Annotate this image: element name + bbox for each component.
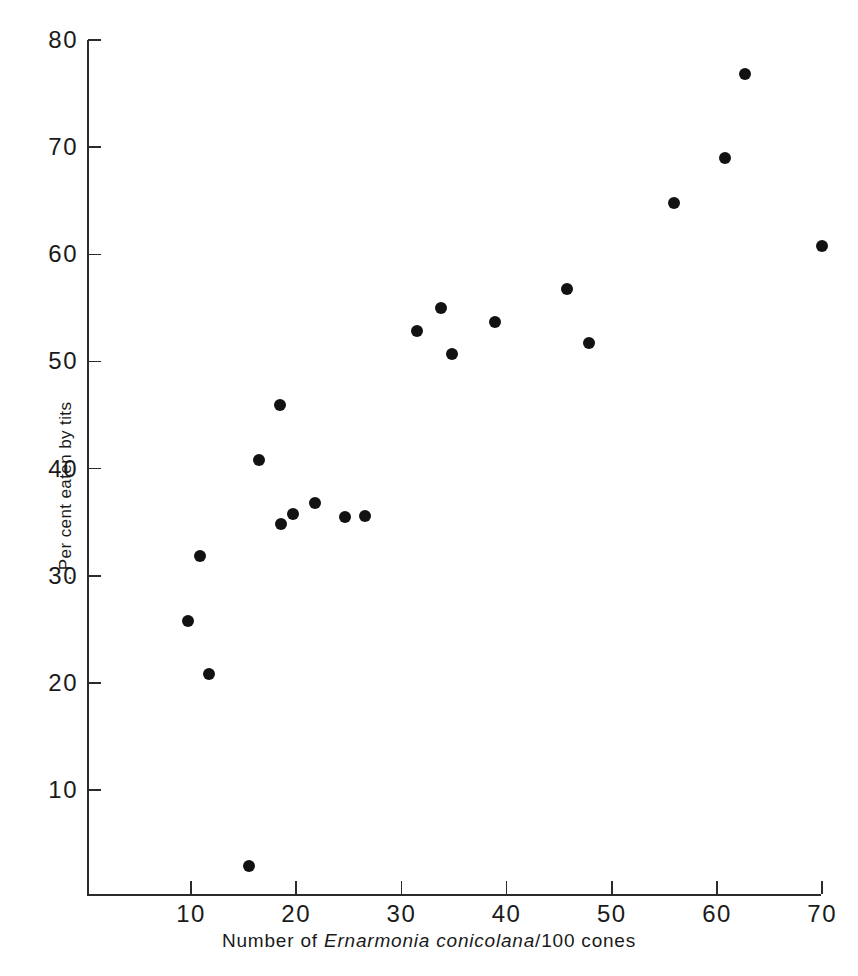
data-point bbox=[446, 348, 458, 360]
data-point bbox=[411, 325, 423, 337]
x-tick-50 bbox=[611, 881, 613, 894]
y-tick-30 bbox=[88, 575, 101, 577]
y-tick-70 bbox=[88, 146, 101, 148]
x-tick-70 bbox=[821, 881, 823, 894]
data-point bbox=[668, 197, 680, 209]
x-axis-title: Number of Ernarmonia conicolana/100 cone… bbox=[0, 930, 858, 952]
y-tick-40 bbox=[88, 468, 101, 470]
data-point bbox=[583, 337, 595, 349]
data-point bbox=[253, 454, 265, 466]
data-point bbox=[287, 508, 299, 520]
x-tick-label-40: 40 bbox=[492, 900, 522, 928]
y-tick-label-20: 20 bbox=[48, 669, 78, 697]
x-tick-20 bbox=[295, 881, 297, 894]
x-axis-title-suffix: /100 cones bbox=[535, 930, 636, 951]
scatter-plot-figure: 1020304050607080 10203040506070 . Per ce… bbox=[0, 0, 858, 976]
data-point bbox=[816, 240, 828, 252]
x-tick-label-30: 30 bbox=[387, 900, 417, 928]
data-point bbox=[435, 302, 447, 314]
x-tick-label-10: 10 bbox=[176, 900, 206, 928]
y-tick-label-80: 80 bbox=[48, 26, 78, 54]
x-tick-label-50: 50 bbox=[597, 900, 627, 928]
x-tick-label-20: 20 bbox=[281, 900, 311, 928]
data-point bbox=[489, 316, 501, 328]
y-tick-10 bbox=[88, 789, 101, 791]
x-axis-title-prefix: Number of bbox=[222, 930, 324, 951]
y-tick-20 bbox=[88, 682, 101, 684]
data-point bbox=[359, 510, 371, 522]
data-point bbox=[339, 511, 351, 523]
data-point bbox=[275, 518, 287, 530]
data-point bbox=[203, 668, 215, 680]
data-point bbox=[309, 497, 321, 509]
data-point bbox=[561, 283, 573, 295]
x-tick-30 bbox=[401, 881, 403, 894]
y-tick-label-60: 60 bbox=[48, 240, 78, 268]
y-tick-label-10: 10 bbox=[48, 776, 78, 804]
x-tick-10 bbox=[190, 881, 192, 894]
y-tick-50 bbox=[88, 361, 101, 363]
data-point bbox=[274, 399, 286, 411]
x-tick-label-60: 60 bbox=[702, 900, 732, 928]
x-axis-title-species: Ernarmonia conicolana bbox=[324, 930, 535, 951]
x-axis-line bbox=[87, 894, 821, 896]
x-tick-40 bbox=[506, 881, 508, 894]
y-tick-label-70: 70 bbox=[48, 133, 78, 161]
data-point bbox=[719, 152, 731, 164]
x-tick-60 bbox=[716, 881, 718, 894]
data-point bbox=[182, 615, 194, 627]
data-point bbox=[739, 68, 751, 80]
y-tick-80 bbox=[88, 39, 101, 41]
y-axis-title: . Per cent eaten by tits bbox=[56, 361, 76, 621]
data-point bbox=[243, 860, 255, 872]
x-tick-label-70: 70 bbox=[807, 900, 837, 928]
y-tick-60 bbox=[88, 254, 101, 256]
data-point bbox=[194, 550, 206, 562]
